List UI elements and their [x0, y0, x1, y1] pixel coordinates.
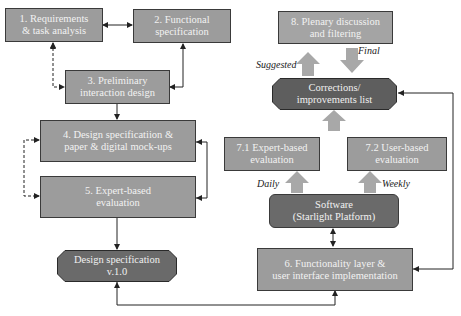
node-software-line1: Software: [293, 199, 376, 211]
node-functionality-layer-line1: 6. Functionality layer &: [272, 258, 397, 270]
dashed-arrow-1-3: [53, 43, 64, 87]
node-requirements-line2: & task analysis: [20, 25, 89, 37]
node-corrections-list: Corrections/improvements list: [272, 78, 397, 110]
node-design-spec-v1-line1: Design specification: [74, 254, 160, 266]
node-expert-based-eval-line1: 7.1 Expert-based: [236, 142, 307, 154]
node-plenary-discussion-line1: 8. Plenary discussion: [291, 16, 380, 28]
node-functionality-layer-line2: user interface implementation: [272, 270, 397, 282]
node-design-spec-v1-line2: v.1.0: [74, 266, 160, 278]
node-requirements-line1: 1. Requirements: [20, 13, 89, 25]
node-user-based-eval: 7.2 User-basedevaluation: [347, 137, 447, 171]
node-design-spec-mockups-line1: 4. Design specificatiion &: [63, 129, 173, 141]
node-user-based-eval-line2: evaluation: [366, 154, 429, 166]
node-design-spec-mockups-line2: paper & digital mock-ups: [63, 141, 173, 153]
node-software-line2: (Starlight Platform): [293, 211, 376, 223]
node-expert-evaluation-line2: evaluation: [85, 197, 151, 209]
node-requirements: 1. Requirements& task analysis: [5, 8, 103, 42]
node-plenary-discussion: 8. Plenary discussionand filtering: [278, 11, 393, 44]
node-expert-evaluation-line1: 5. Expert-based: [85, 185, 151, 197]
label-suggested: Suggested: [256, 59, 297, 70]
arrow-2-3: [170, 44, 183, 87]
node-design-spec-v1: Design specificationv.1.0: [57, 250, 177, 282]
label-final: Final: [358, 45, 380, 56]
node-preliminary-design-line2: interaction design: [80, 87, 155, 99]
node-corrections-list-line1: Corrections/: [297, 82, 373, 94]
node-software: Software(Starlight Platform): [269, 194, 399, 228]
node-design-spec-mockups: 4. Design specificatiion &paper & digita…: [40, 120, 196, 162]
dashed-loop-4-5: [24, 140, 39, 196]
node-functional-spec-line1: 2. Functional: [154, 14, 209, 26]
label-daily: Daily: [257, 178, 279, 189]
node-functional-spec: 2. Functionalspecification: [133, 9, 231, 43]
label-weekly: Weekly: [382, 178, 410, 189]
node-user-based-eval-line1: 7.2 User-based: [366, 142, 429, 154]
node-expert-evaluation: 5. Expert-basedevaluation: [40, 176, 196, 218]
node-expert-based-eval: 7.1 Expert-basedevaluation: [224, 137, 320, 171]
node-preliminary-design-line1: 3. Preliminary: [80, 75, 155, 87]
node-functional-spec-line2: specification: [154, 26, 209, 38]
node-preliminary-design: 3. Preliminaryinteraction design: [65, 70, 170, 104]
node-plenary-discussion-line2: and filtering: [291, 28, 380, 40]
loop-4-5: [196, 142, 207, 198]
node-corrections-list-line2: improvements list: [297, 94, 373, 106]
block-arrows: [285, 48, 382, 193]
node-expert-based-eval-line2: evaluation: [236, 154, 307, 166]
node-functionality-layer: 6. Functionality layer &user interface i…: [257, 248, 413, 291]
